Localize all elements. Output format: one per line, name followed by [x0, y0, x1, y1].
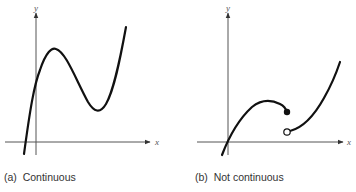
open-endpoint-circle: [284, 129, 290, 135]
x-axis-label: x: [154, 137, 159, 147]
continuous-curve: [24, 27, 126, 154]
left-curve-piece: [222, 101, 287, 155]
caption-not-continuous: (b) Not continuous: [195, 171, 284, 183]
x-axis-label: x: [346, 137, 351, 147]
caption-continuous: (a) Continuous: [4, 171, 76, 183]
panel-a-graph: x y: [5, 3, 159, 155]
figure: x y x y: [0, 0, 356, 192]
y-axis-label: y: [225, 3, 230, 13]
panel-b-graph: x y: [197, 3, 351, 155]
right-curve-piece: [290, 62, 340, 131]
closed-endpoint-dot: [284, 109, 290, 115]
y-axis-label: y: [33, 3, 38, 13]
